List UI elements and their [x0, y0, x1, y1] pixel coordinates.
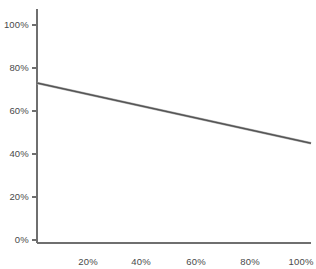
x-tick-label: 100% — [288, 256, 313, 267]
x-tick-label: 60% — [186, 256, 206, 267]
y-tick-label: 0% — [15, 234, 29, 245]
y-tick-label: 20% — [9, 191, 29, 202]
x-tick-label: 80% — [240, 256, 260, 267]
y-tick-label: 40% — [9, 148, 29, 159]
y-tick-label: 100% — [4, 19, 29, 30]
y-tick-label: 60% — [9, 105, 29, 116]
x-tick-label: 40% — [131, 256, 151, 267]
y-tick-label: 80% — [9, 62, 29, 73]
line-chart-figure: 100% 80% 60% 40% 20% 0% 20% 40% 60% 80% … — [0, 0, 316, 269]
chart-canvas: 100% 80% 60% 40% 20% 0% 20% 40% 60% 80% … — [0, 0, 316, 269]
x-tick-label: 20% — [78, 256, 98, 267]
